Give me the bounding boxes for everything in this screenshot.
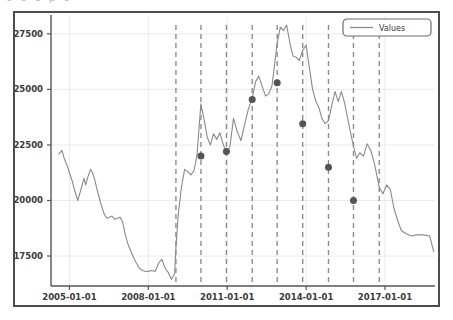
- y-tick-label: 25000: [15, 84, 43, 94]
- figure-root: o o o p o 1750020000225002500027500 2005…: [0, 0, 453, 320]
- x-tick-label: 2017-01-01: [358, 292, 412, 302]
- scan-artifact-label: o o o p o: [6, 0, 72, 4]
- data-point-marker[interactable]: [197, 153, 204, 160]
- x-tick-label: 2005-01-01: [42, 292, 96, 302]
- x-tick-label: 2011-01-01: [200, 292, 254, 302]
- x-tick-label: 2008-01-01: [121, 292, 175, 302]
- y-tick-label: 22500: [15, 140, 43, 150]
- data-point-marker[interactable]: [249, 96, 256, 103]
- line-chart: 1750020000225002500027500 2005-01-012008…: [15, 13, 438, 305]
- data-point-marker[interactable]: [274, 79, 281, 86]
- y-tick-label: 27500: [15, 29, 43, 39]
- data-point-marker[interactable]: [325, 164, 332, 171]
- chart-legend[interactable]: Values: [343, 19, 431, 36]
- legend-entry-label: Values: [379, 24, 405, 33]
- x-tick-label: 2014-01-01: [279, 292, 333, 302]
- data-point-marker[interactable]: [223, 148, 230, 155]
- data-point-marker[interactable]: [299, 120, 306, 127]
- y-tick-label: 20000: [15, 195, 43, 205]
- data-point-marker[interactable]: [350, 197, 357, 204]
- scan-artifact-text: o o o p o: [0, 0, 453, 9]
- y-tick-label: 17500: [15, 251, 43, 261]
- figure-frame: 1750020000225002500027500 2005-01-012008…: [13, 11, 440, 307]
